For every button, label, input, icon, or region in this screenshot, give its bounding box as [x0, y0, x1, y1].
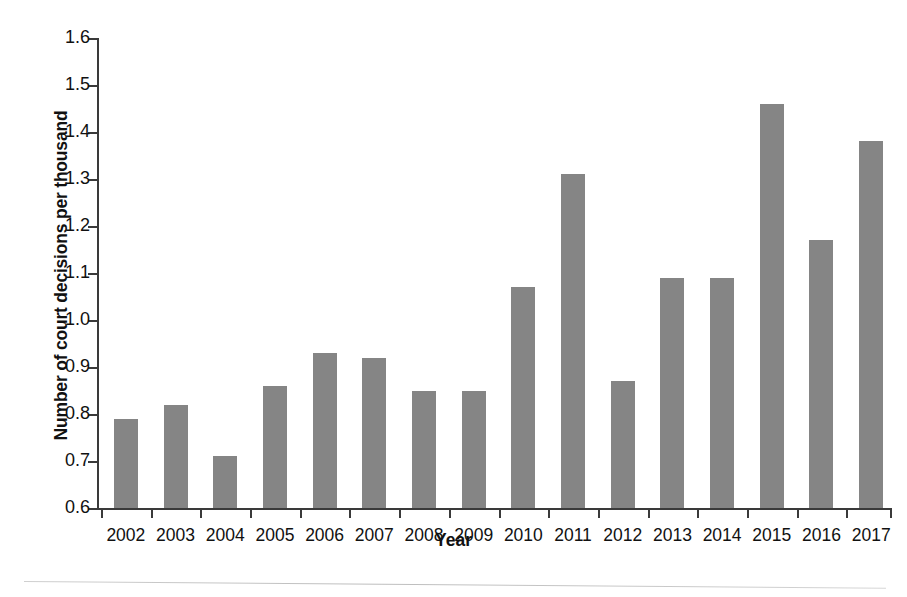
y-tick-label: 1.1 [65, 262, 90, 282]
y-tick-label: 0.6 [65, 497, 90, 517]
bar [164, 405, 188, 508]
x-tick-mark [648, 508, 650, 518]
x-tick-mark [697, 508, 699, 518]
y-tick-label: 0.9 [65, 356, 90, 376]
x-axis-line [97, 508, 892, 510]
x-tick-mark [200, 508, 202, 518]
bar [362, 358, 386, 508]
y-tick-label: 1.5 [65, 74, 90, 94]
y-tick-label: 1.4 [65, 121, 90, 141]
bar [710, 278, 734, 508]
bar-chart-figure: Number of court decisions per thousand 1… [0, 0, 907, 597]
footer-divider [24, 581, 886, 589]
x-tick-mark [399, 508, 401, 518]
x-tick-mark [499, 508, 501, 518]
x-tick-mark [349, 508, 351, 518]
x-tick-mark [151, 508, 153, 518]
y-tick-label: 1.0 [65, 309, 90, 329]
y-tick-label: 1.3 [65, 168, 90, 188]
plot-area: 1.61.51.41.31.21.11.00.90.80.70.6 200220… [97, 38, 892, 508]
x-tick-mark [797, 508, 799, 518]
bar [760, 104, 784, 508]
y-tick-label: 1.6 [65, 27, 90, 47]
bar [263, 386, 287, 508]
x-axis-title: Year [0, 530, 907, 551]
x-tick-mark [250, 508, 252, 518]
bar [611, 381, 635, 508]
bar [511, 287, 535, 508]
x-tick-mark [548, 508, 550, 518]
x-tick-mark [747, 508, 749, 518]
y-tick-label: 0.8 [65, 403, 90, 423]
bar [561, 174, 585, 508]
x-tick-mark [846, 508, 848, 518]
bar [462, 391, 486, 509]
x-tick-mark [890, 508, 892, 518]
y-tick-label: 0.7 [65, 450, 90, 470]
x-tick-mark [598, 508, 600, 518]
bar [809, 240, 833, 508]
y-axis-line [97, 38, 99, 508]
bar [660, 278, 684, 508]
x-tick-mark [449, 508, 451, 518]
bar [412, 391, 436, 509]
x-tick-mark [101, 508, 103, 518]
bar [213, 456, 237, 508]
bar [114, 419, 138, 508]
y-tick-label: 1.2 [65, 215, 90, 235]
x-tick-mark [300, 508, 302, 518]
bar [313, 353, 337, 508]
bar [859, 141, 883, 508]
